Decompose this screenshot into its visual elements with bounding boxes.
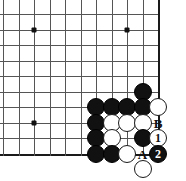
point-label-b: B [154, 116, 163, 129]
point-label-a: A [138, 147, 147, 160]
star-point-upper-right [125, 27, 130, 32]
go-board-diagram: 12 BA [0, 0, 186, 181]
stone-white-white-1 [149, 98, 167, 116]
grid-line-vertical-8 [127, 0, 128, 156]
star-point-lower-left [32, 120, 37, 125]
stone-white-white-7 [134, 160, 152, 178]
grid-line-vertical-2 [34, 0, 35, 156]
move-number-label: 2 [150, 146, 166, 162]
star-point-upper-left [32, 27, 37, 32]
grid-line-vertical-0 [3, 0, 4, 156]
grid-line-vertical-1 [19, 0, 20, 156]
stone-white-white-6 [118, 145, 136, 163]
grid-line-vertical-4 [65, 0, 66, 156]
numbered-stone-2: 2 [149, 145, 167, 163]
grid-line-vertical-3 [50, 0, 51, 156]
grid-line-vertical-5 [81, 0, 82, 156]
